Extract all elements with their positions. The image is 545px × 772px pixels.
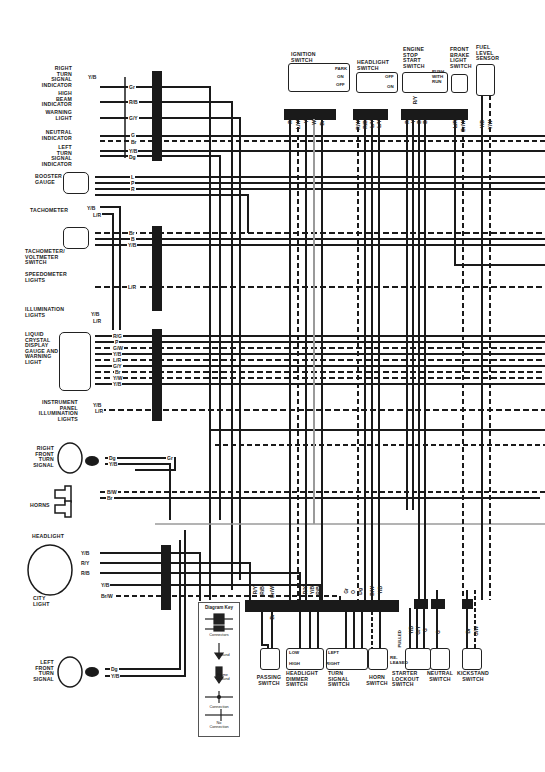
wire-code: G/Y <box>415 626 421 635</box>
wire-code: Y/B <box>108 461 118 467</box>
wire-code: R/Y <box>412 96 418 104</box>
position-label: ON <box>337 74 344 79</box>
wire-code: G <box>130 132 136 138</box>
left-front-turn-signal-lens <box>58 657 82 687</box>
label-left-front-turn-signal: LEFT FRONT TURN SIGNAL <box>20 660 54 682</box>
wire-code: Gr <box>343 588 349 594</box>
label-right-turn-signal-indicator: RIGHT TURN SIGNAL INDICATOR <box>20 66 72 88</box>
wire-code: Br <box>130 139 138 145</box>
key-ground: Ground <box>217 653 237 657</box>
label-illumination-lights: ILLUMINATION LIGHTS <box>25 307 64 318</box>
connector-headlight <box>354 110 387 119</box>
wire-code: R/W <box>355 120 361 130</box>
wire-code: Br <box>269 614 275 620</box>
wire-code: O <box>350 590 356 594</box>
wire-code: Y/B <box>80 550 90 556</box>
connector-block-4 <box>162 546 170 609</box>
connector-block-3 <box>153 330 161 420</box>
right-front-turn-signal-lens <box>58 443 82 473</box>
horn-1 <box>55 486 71 502</box>
key-symbols <box>199 611 239 731</box>
label-high-beam-indicator: HIGH BEAM INDICATOR <box>20 91 72 108</box>
wire-code: Br/W <box>460 120 466 132</box>
wire-code: G/W <box>473 626 479 636</box>
position-label: LOW <box>289 650 299 655</box>
wire-code: R <box>287 120 293 124</box>
wire-code: Br <box>319 120 325 126</box>
position-label: HIGH <box>289 661 300 666</box>
label-kickstand-switch: KICKSTAND SWITCH <box>455 671 491 682</box>
label-headlight-dimmer-switch: HEADLIGHT DIMMER SWITCH <box>286 671 318 688</box>
wire-code: L/R <box>94 408 104 414</box>
key-connection: Connection <box>201 705 237 709</box>
wire-code: L/R <box>452 120 458 128</box>
wire-code: R/B <box>259 586 265 595</box>
wire-code: Y/W <box>487 120 493 129</box>
wire-code: R/B <box>128 99 139 105</box>
wire-code: R <box>130 186 136 192</box>
wire-code: R/Y <box>252 586 258 594</box>
connector-handlebar <box>246 601 398 611</box>
wire-code: Gr <box>166 455 174 461</box>
wire-code: L/R <box>92 318 102 324</box>
wire-code: Y/B <box>479 120 485 128</box>
wire-code: R/Y <box>80 560 90 566</box>
label-left-turn-signal-indicator: LEFT TURN SIGNAL INDICATOR <box>20 145 72 167</box>
label-warning-light: WARNING LIGHT <box>20 110 72 121</box>
fuel-level-sensor <box>476 64 495 96</box>
wire-code: Gr <box>128 84 136 90</box>
label-passing-switch: PASSING SWITCH <box>252 675 286 686</box>
position-label: RIGHT <box>326 661 340 666</box>
wire-code: Dg <box>128 154 137 160</box>
wire-code: Br/W <box>100 593 114 599</box>
label-turn-signal-switch: TURN SIGNAL SWITCH <box>328 671 350 688</box>
label-front-brake-light-switch: FRONT BRAKE LIGHT SWITCH <box>450 47 472 69</box>
wire-code: Br/W <box>269 586 275 598</box>
passing-switch <box>260 648 280 670</box>
label-speedometer-lights: SPEEDOMETER LIGHTS <box>25 272 67 283</box>
position-label: OFF <box>385 74 394 79</box>
label-neutral-switch: NEUTRAL SWITCH <box>425 671 455 682</box>
wire-code: R/B <box>80 570 91 576</box>
wire-code: Y/B <box>377 586 383 594</box>
label-headlight: HEADLIGHT <box>32 534 64 540</box>
wire-code: Y/B <box>112 381 122 387</box>
neutral-switch <box>430 648 450 670</box>
wire-code: B <box>422 120 428 124</box>
label-lcd-gauge: LIQUID CRYSTAL DISPLAY GAUGE AND WARNING… <box>25 332 58 366</box>
starter-lockout-switch <box>405 648 431 670</box>
label-instrument-panel-illumination: INSTRUMENT PANEL ILLUMINATION LIGHTS <box>20 400 78 422</box>
diagram-key-title: Diagram Key <box>199 605 239 610</box>
label-fuel-level-sensor: FUEL LEVEL SENSOR <box>476 45 499 62</box>
wire-code: Dg <box>110 666 119 672</box>
horn-switch <box>368 648 388 670</box>
key-connectors: Connectors <box>201 633 237 637</box>
connector-block-1 <box>153 72 161 160</box>
wire-code: R/B <box>362 120 368 129</box>
wire-code: Br <box>465 628 471 634</box>
wire-code: L/R <box>92 212 102 218</box>
label-tachometer-voltmeter-switch: TACHOMETER/ VOLTMETER SWITCH <box>25 249 65 266</box>
wire-code: Y/B <box>90 311 100 317</box>
position-label: PARK <box>335 66 347 71</box>
wire-code: Br <box>106 495 114 501</box>
label-booster-gauge: BOOSTER GAUGE <box>35 174 62 185</box>
lcd-gauge <box>59 332 91 391</box>
label-tachometer: TACHOMETER <box>30 208 68 214</box>
label-headlight-switch: HEADLIGHT SWITCH <box>357 60 389 71</box>
wire-code: R/Y <box>302 586 308 594</box>
key-frame-ground: Frame Ground <box>217 673 237 681</box>
position-label: RE- LEASED <box>390 655 408 665</box>
wire-code: L/Y <box>376 120 382 128</box>
kickstand-switch <box>462 648 482 670</box>
label-neutral-indicator: NEUTRAL INDICATOR <box>20 130 72 141</box>
diagram-key: Diagram Key Connectors Ground Frame Grou… <box>198 602 240 737</box>
wire-code: Y <box>303 120 309 123</box>
label-horn-switch: HORN SWITCH <box>362 675 392 686</box>
label-starter-lockout-switch: STARTER LOCKOUT SWITCH <box>392 671 419 688</box>
tachometer-voltmeter-switch <box>63 227 89 249</box>
wire-code: G <box>435 630 441 634</box>
label-city-light: CITY LIGHT <box>33 596 50 607</box>
label-right-front-turn-signal: RIGHT FRONT TURN SIGNAL <box>20 446 54 468</box>
wire-code: R/B <box>315 586 321 595</box>
